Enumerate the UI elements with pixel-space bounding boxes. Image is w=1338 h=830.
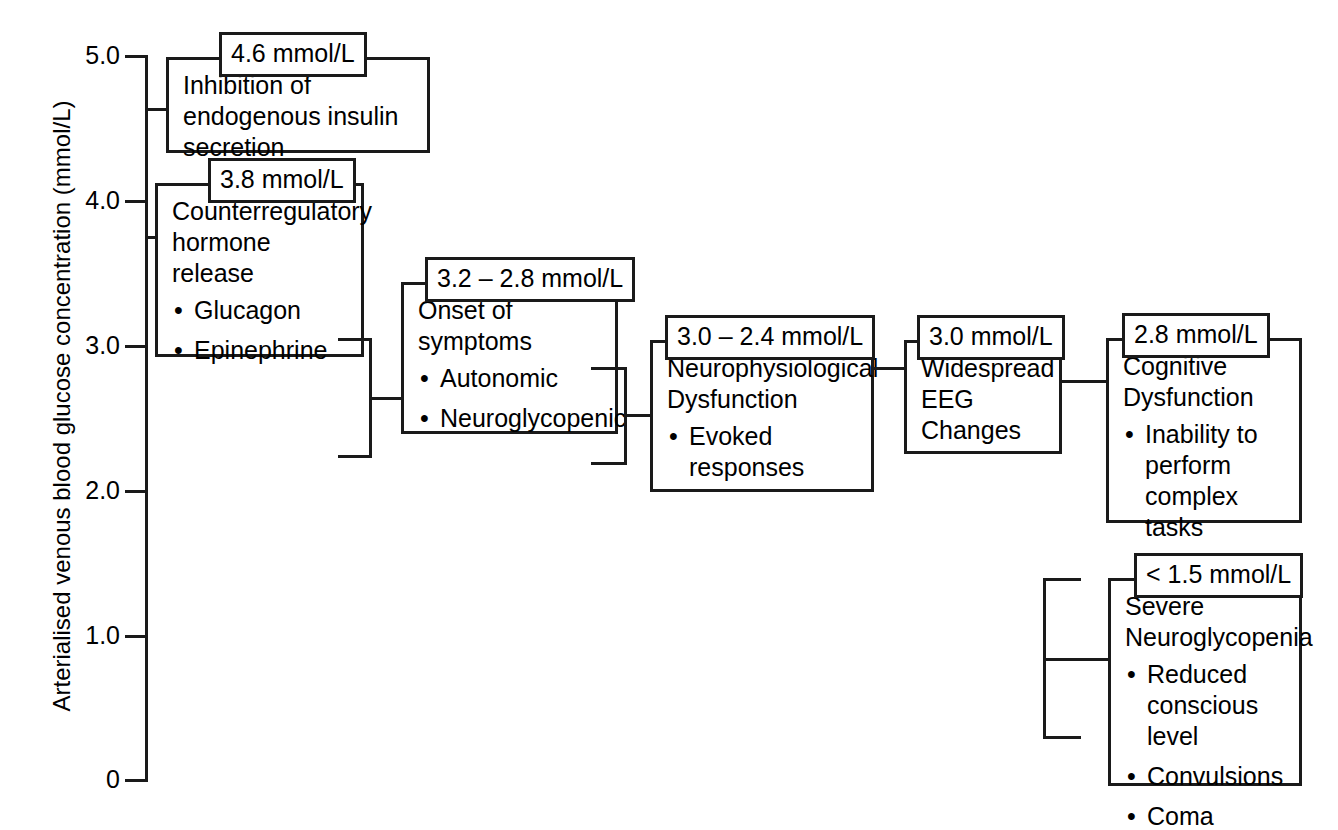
stage-value-inhibition: 4.6 mmol/L [219,32,367,77]
bracket-severe-bottom-arm [1043,736,1081,739]
stage-box-neurophysiological-dysfunction[interactable]: Neurophysiological Dysfunction Evoked re… [650,340,874,492]
connector-neuro-to-eeg [872,367,906,370]
stage-title-inhibition: Inhibition of endogenous insulin secreti… [183,70,413,163]
y-axis-tick-4 [125,200,145,203]
stage-value-severe-neuroglycopenia: < 1.5 mmol/L [1134,553,1303,598]
stage-value-eeg-changes: 3.0 mmol/L [917,315,1065,360]
bullet-item: Evoked responses [667,421,857,483]
stage-box-counterregulatory[interactable]: Counterregulatory hormone release Glucag… [155,183,364,357]
y-axis-tick-3 [125,345,145,348]
bracket-counterregulatory-onset-top-arm [338,338,372,341]
stage-bullets-counterregulatory: Glucagon Epinephrine [172,295,347,366]
y-axis-tick-2 [125,490,145,493]
stage-value-neurophysiological-dysfunction: 3.0 – 2.4 mmol/L [665,315,875,360]
stage-title-cognitive-dysfunction: Cognitive Dysfunction [1123,351,1285,413]
stage-title-eeg-changes: Widespread EEG Changes [921,353,1045,446]
bullet-item: Reduced conscious level [1125,659,1285,752]
stage-body-cognitive-dysfunction: Cognitive Dysfunction Inability to perfo… [1109,341,1299,543]
stage-title-onset-of-symptoms: Onset of symptoms [418,295,601,357]
bracket-severe-stem [1043,658,1111,661]
y-axis-tick-label-3: 3.0 [64,333,120,358]
bullet-item: Autonomic [418,363,601,394]
stage-bullets-cognitive-dysfunction: Inability to perform complex tasks [1123,419,1285,543]
y-axis-tick-1 [125,635,145,638]
stage-box-severe-neuroglycopenia[interactable]: Severe Neuroglycopenia Reduced conscious… [1108,578,1302,786]
bullet-item: Neuroglycopenic [418,403,601,434]
stage-bullets-onset-of-symptoms: Autonomic Neuroglycopenic [418,363,601,434]
stage-bullets-neurophysiological-dysfunction: Evoked responses [667,421,857,483]
stage-body-severe-neuroglycopenia: Severe Neuroglycopenia Reduced conscious… [1111,581,1299,830]
y-axis-tick-label-1: 1.0 [64,623,120,648]
stage-value-cognitive-dysfunction: 2.8 mmol/L [1122,313,1270,358]
y-axis-tick-label-5: 5.0 [64,43,120,68]
stage-box-onset-of-symptoms[interactable]: Onset of symptoms Autonomic Neuroglycope… [401,282,618,434]
stage-bullets-severe-neuroglycopenia: Reduced conscious level Convulsions Coma [1125,659,1285,830]
bullet-item: Epinephrine [172,335,347,366]
bullet-item: Convulsions [1125,761,1285,792]
y-axis-tick-0 [125,779,145,782]
bracket-onset-neuro-stem [624,414,652,417]
bullet-item: Coma [1125,801,1285,830]
stage-title-severe-neuroglycopenia: Severe Neuroglycopenia [1125,591,1285,653]
stage-box-cognitive-dysfunction[interactable]: Cognitive Dysfunction Inability to perfo… [1106,338,1302,523]
bracket-onset-neuro-top-arm [591,367,627,370]
stage-body-onset-of-symptoms: Onset of symptoms Autonomic Neuroglycope… [404,285,615,434]
bracket-counterregulatory-onset-stem [369,397,403,400]
stage-value-counterregulatory: 3.8 mmol/L [208,158,356,203]
y-axis-tick-label-0: 0 [64,767,120,792]
stage-title-counterregulatory: Counterregulatory hormone release [172,196,347,289]
stage-body-counterregulatory: Counterregulatory hormone release Glucag… [158,186,361,366]
y-axis-tick-label-2: 2.0 [64,478,120,503]
bracket-counterregulatory-onset-bottom-arm [338,455,372,458]
bullet-item: Glucagon [172,295,347,326]
y-axis-line [145,55,148,782]
stage-body-neurophysiological-dysfunction: Neurophysiological Dysfunction Evoked re… [653,343,871,483]
y-axis-tick-label-4: 4.0 [64,188,120,213]
diagram-canvas: Arterialised venous blood glucose concen… [0,0,1338,830]
stage-value-onset-of-symptoms: 3.2 – 2.8 mmol/L [425,257,635,302]
stage-title-neurophysiological-dysfunction: Neurophysiological Dysfunction [667,353,857,415]
y-axis-tick-5 [125,55,145,58]
bullet-item: Inability to perform complex tasks [1123,419,1285,543]
bracket-severe-top-arm [1043,578,1081,581]
connector-eeg-to-cognitive [1060,380,1108,383]
bracket-onset-neuro-bottom-arm [591,462,627,465]
